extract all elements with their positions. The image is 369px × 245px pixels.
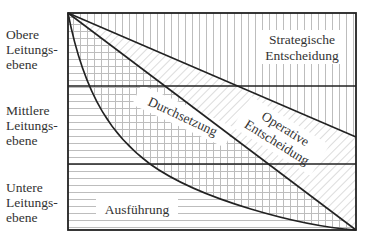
label-strategic-line2: Entscheidung [265, 48, 339, 63]
management-decision-diagram: Strategische Entscheidung Durchsetzung O… [0, 0, 369, 245]
label-execution: Ausführung [105, 202, 170, 217]
label-strategic-line1: Strategische [269, 32, 335, 47]
